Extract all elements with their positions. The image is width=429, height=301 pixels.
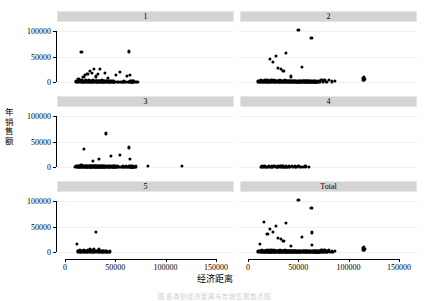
gridline-horizontal: [57, 116, 234, 117]
data-point: [282, 240, 285, 243]
panel-plot-area: [57, 107, 234, 173]
data-point: [289, 244, 292, 247]
x-axis-tick: [65, 259, 66, 262]
data-point: [104, 132, 107, 135]
data-point: [118, 70, 121, 73]
data-point: [285, 221, 288, 224]
x-axis-label: 经济距离: [0, 272, 429, 285]
x-axis-tick: [349, 259, 350, 262]
data-point: [83, 148, 86, 151]
panel-strip-header: 3: [57, 96, 234, 107]
data-point: [263, 220, 266, 223]
panel-strip-label: 5: [58, 182, 233, 191]
panel-strip-label: 2: [241, 12, 416, 21]
y-axis-tick-label: 50000: [1, 222, 51, 231]
y-axis-tick-label: 0: [1, 162, 51, 171]
x-axis-line: [65, 259, 216, 260]
data-point: [285, 51, 288, 54]
x-axis-tick-label: 100000: [337, 263, 361, 272]
data-point: [114, 74, 117, 77]
panel-strip-header: Total: [240, 181, 417, 192]
x-axis-tick: [166, 259, 167, 262]
data-point: [363, 77, 366, 80]
gridline-horizontal: [57, 201, 234, 202]
panel-plot-area: [57, 192, 234, 258]
panel-total: Total: [240, 181, 417, 258]
data-point: [128, 157, 131, 160]
x-axis-tick-label: 0: [246, 263, 250, 272]
data-point: [118, 154, 121, 157]
panel-1: 1: [57, 11, 234, 88]
gridline-horizontal: [240, 116, 417, 117]
data-point: [92, 67, 95, 70]
y-axis-tick: [53, 227, 56, 228]
panel-5: 5: [57, 181, 234, 258]
data-point: [259, 242, 262, 245]
panel-strip-label: 4: [241, 97, 416, 106]
x-axis-line: [248, 259, 399, 260]
x-axis-tick-label: 0: [63, 263, 67, 272]
data-point: [363, 247, 366, 250]
panel-strip-header: 1: [57, 11, 234, 22]
data-point: [300, 65, 303, 68]
y-axis-tick-label: 50000: [1, 137, 51, 146]
data-point: [310, 37, 313, 40]
y-axis-tick-label: 0: [1, 77, 51, 86]
y-axis-tick-label: 100000: [1, 197, 51, 206]
y-axis-tick: [53, 82, 56, 83]
y-axis-tick: [53, 31, 56, 32]
gridline-horizontal: [57, 57, 234, 58]
gridline-horizontal: [240, 227, 417, 228]
panel-strip-header: 2: [240, 11, 417, 22]
panel-plot-area: [240, 192, 417, 258]
gridline-horizontal: [240, 57, 417, 58]
y-axis-tick-label: 0: [1, 247, 51, 256]
x-axis-tick-label: 150000: [204, 263, 228, 272]
data-point: [311, 243, 314, 246]
y-axis-line: [56, 201, 57, 252]
data-point: [94, 231, 97, 234]
data-point: [310, 207, 313, 210]
y-axis-tick: [53, 116, 56, 117]
y-axis-tick-label: 50000: [1, 52, 51, 61]
data-point: [109, 154, 112, 157]
data-point: [80, 50, 83, 53]
panel-plot-area: [240, 107, 417, 173]
panel-2: 2: [240, 11, 417, 88]
data-point: [97, 72, 100, 75]
panel-strip-header: 5: [57, 181, 234, 192]
y-axis-tick-label: 100000: [1, 112, 51, 121]
data-point: [300, 235, 303, 238]
data-point: [99, 67, 102, 70]
y-axis-tick: [53, 167, 56, 168]
data-point: [289, 75, 292, 78]
lattice-scatter-figure: 年 销 售 额 10500001000002305000010000045050…: [0, 0, 429, 301]
data-point: [271, 61, 274, 64]
data-point: [97, 158, 100, 161]
data-point: [128, 73, 131, 76]
x-axis-tick: [399, 259, 400, 262]
x-axis-tick: [216, 259, 217, 262]
panel-strip-label: 3: [58, 97, 233, 106]
panel-plot-area: [57, 22, 234, 88]
data-point: [282, 70, 285, 73]
data-point: [310, 231, 313, 234]
x-axis-tick-label: 50000: [288, 263, 308, 272]
data-point: [90, 71, 93, 74]
panel-4: 4: [240, 96, 417, 173]
gridline-horizontal: [57, 227, 234, 228]
gridline-horizontal: [57, 31, 234, 32]
gridline-horizontal: [240, 31, 417, 32]
panel-strip-label: Total: [241, 182, 416, 191]
x-axis-tick: [248, 259, 249, 262]
y-axis-tick: [53, 57, 56, 58]
y-axis-tick: [53, 252, 56, 253]
panel-plot-area: [240, 22, 417, 88]
gridline-horizontal: [57, 142, 234, 143]
x-axis-tick-label: 50000: [105, 263, 125, 272]
data-point: [103, 71, 106, 74]
y-axis-tick: [53, 142, 56, 143]
panel-strip-label: 1: [58, 12, 233, 21]
y-axis-tick: [53, 201, 56, 202]
data-point: [127, 146, 130, 149]
